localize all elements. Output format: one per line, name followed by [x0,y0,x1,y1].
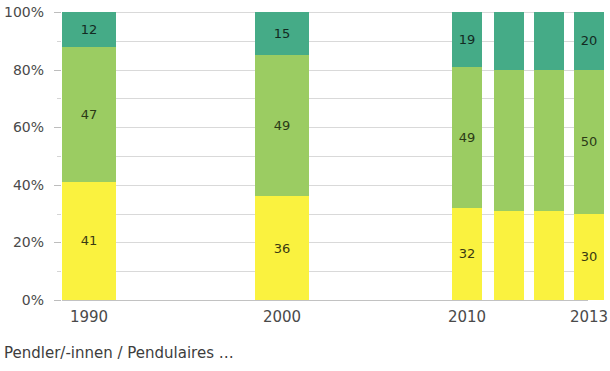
data-label: 41 [81,234,98,247]
bar-segment-top-teal-green-2012[interactable] [534,12,564,70]
y-axis-tick [54,70,61,71]
data-label: 47 [81,108,98,121]
y-axis-tick [54,242,61,243]
y-axis-label: 40% [0,177,44,193]
bar-2000[interactable]: 154936 [255,12,309,300]
bar-segment-top-teal-green-2013[interactable]: 20 [574,12,604,70]
bar-2011[interactable] [494,12,524,300]
data-label: 12 [81,23,98,36]
bar-segment-middle-light-green-2010[interactable]: 49 [452,67,482,208]
bar-segment-bottom-yellow-2012[interactable] [534,211,564,300]
data-label: 32 [459,247,476,260]
data-label: 15 [274,27,291,40]
data-label: 49 [274,119,291,132]
y-axis-label: 0% [0,292,44,308]
x-axis-label-1990: 1990 [70,308,108,326]
x-axis-label-2013: 2013 [570,308,608,326]
y-axis-label: 60% [0,119,44,135]
y-axis-tick [57,41,61,42]
bar-segment-top-teal-green-2011[interactable] [494,12,524,70]
y-axis-tick [54,12,61,13]
y-axis-tick [57,156,61,157]
data-label: 50 [581,135,598,148]
y-axis-tick [57,98,61,99]
y-axis-tick [57,214,61,215]
bar-1990[interactable]: 124741 [62,12,116,300]
bar-2013[interactable]: 205030 [574,12,604,300]
y-axis-label: 100% [0,4,44,20]
data-label: 30 [581,250,598,263]
data-label: 19 [459,33,476,46]
bar-segment-bottom-yellow-2011[interactable] [494,211,524,300]
bar-2010[interactable]: 194932 [452,12,482,300]
bar-segment-bottom-yellow-2010[interactable]: 32 [452,208,482,300]
bar-segment-top-teal-green-2010[interactable]: 19 [452,12,482,67]
x-axis-label-2010: 2010 [448,308,486,326]
y-axis-tick [54,127,61,128]
bar-segment-bottom-yellow-2013[interactable]: 30 [574,214,604,300]
chart-caption: Pendler/-innen / Pendulaires … [4,344,234,362]
bar-segment-bottom-yellow-1990[interactable]: 41 [62,182,116,300]
bar-segment-middle-light-green-2011[interactable] [494,70,524,211]
bar-segment-middle-light-green-2013[interactable]: 50 [574,70,604,214]
data-label: 36 [274,242,291,255]
gridline [62,300,588,301]
stacked-bar-chart: 124741154936194932205030 Pendler/-innen … [0,0,610,371]
bar-segment-bottom-yellow-2000[interactable]: 36 [255,196,309,300]
data-label: 20 [581,34,598,47]
x-axis-label-2000: 2000 [263,308,301,326]
y-axis-label: 20% [0,234,44,250]
bar-segment-middle-light-green-2000[interactable]: 49 [255,55,309,196]
data-label: 49 [459,131,476,144]
y-axis-label: 80% [0,62,44,78]
bar-segment-top-teal-green-2000[interactable]: 15 [255,12,309,55]
plot-area: 124741154936194932205030 [62,12,588,300]
bar-2012[interactable] [534,12,564,300]
bar-segment-top-teal-green-1990[interactable]: 12 [62,12,116,47]
y-axis-tick [54,300,61,301]
y-axis-tick [54,185,61,186]
bar-segment-middle-light-green-1990[interactable]: 47 [62,47,116,182]
y-axis-tick [57,271,61,272]
bar-segment-middle-light-green-2012[interactable] [534,70,564,211]
